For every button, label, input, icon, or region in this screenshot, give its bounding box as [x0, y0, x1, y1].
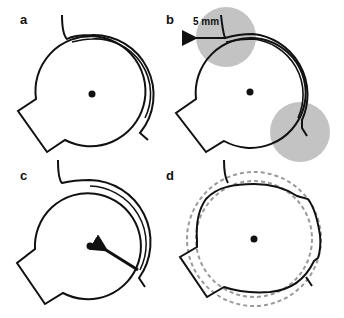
- channel-stem: [224, 160, 228, 183]
- panel-label-d: d: [166, 169, 174, 182]
- panel-label-a: a: [20, 13, 27, 26]
- channel-outer: [62, 15, 154, 140]
- center-dot: [87, 243, 94, 250]
- panel-label-b: b: [166, 13, 174, 26]
- scale-label: 5 mm: [193, 17, 219, 27]
- panel-c: [17, 160, 151, 304]
- diagram-canvas: [0, 0, 344, 318]
- panel-d: [180, 160, 321, 306]
- panel-label-c: c: [20, 169, 27, 182]
- cell-outline: [180, 184, 320, 297]
- cell-outline: [17, 193, 141, 304]
- channel-inner: [72, 39, 151, 118]
- cell-outline: [18, 36, 145, 152]
- center-dot: [247, 89, 254, 96]
- center-dot: [89, 91, 96, 98]
- panel-a: [18, 15, 154, 152]
- displacement-arrow: [106, 250, 138, 270]
- panel-b: [176, 7, 330, 162]
- figure: a b c d 5 mm: [0, 0, 344, 318]
- center-dot: [251, 236, 258, 243]
